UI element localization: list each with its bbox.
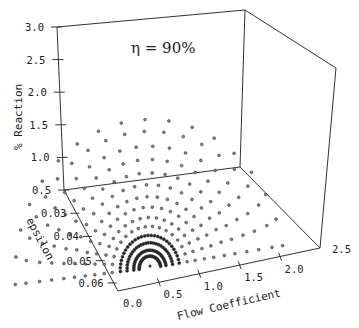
data-point — [15, 256, 18, 259]
y-tick-label: 0.05 — [67, 255, 92, 267]
data-point — [242, 234, 245, 237]
data-point — [14, 283, 17, 286]
data-point — [137, 227, 140, 230]
data-point — [200, 207, 203, 210]
data-point — [176, 254, 179, 257]
data-point — [25, 282, 28, 285]
data-point — [56, 178, 59, 181]
data-point — [177, 228, 180, 231]
data-point — [103, 156, 106, 159]
z-tick-label: 3.0 — [25, 21, 44, 33]
data-point — [118, 150, 121, 153]
z-tick-label: 1.5 — [29, 119, 48, 131]
data-point — [119, 266, 122, 269]
y-tick-label: 0.06 — [78, 277, 103, 289]
data-point — [143, 234, 146, 237]
data-point — [105, 254, 108, 257]
data-point — [223, 254, 226, 257]
data-point — [124, 212, 127, 215]
data-point — [150, 234, 153, 237]
data-point — [185, 208, 188, 211]
data-point — [165, 240, 168, 243]
data-point — [257, 248, 260, 251]
data-point — [125, 235, 128, 238]
data-point — [138, 172, 141, 175]
data-point — [184, 253, 187, 256]
data-point — [237, 196, 240, 199]
data-point — [135, 146, 138, 149]
data-point — [199, 191, 202, 194]
data-point — [184, 152, 187, 155]
data-point — [177, 215, 180, 218]
data-point — [162, 238, 165, 241]
data-point — [228, 204, 231, 207]
data-point — [108, 168, 111, 171]
data-point — [208, 217, 211, 220]
data-point — [191, 229, 194, 232]
data-point — [50, 279, 53, 282]
data-point — [168, 120, 171, 123]
axes-box — [57, 10, 336, 291]
data-point — [126, 269, 129, 272]
data-point — [111, 263, 114, 266]
data-point — [101, 188, 104, 191]
data-point — [126, 266, 129, 269]
data-point — [160, 207, 163, 210]
data-point — [180, 164, 183, 167]
data-point — [203, 257, 206, 260]
data-point — [192, 250, 195, 253]
data-point — [147, 216, 150, 219]
data-point — [200, 143, 203, 146]
data-point — [185, 221, 188, 224]
data-point — [188, 242, 191, 245]
data-point — [111, 195, 114, 198]
data-point — [157, 184, 160, 187]
data-point — [104, 139, 107, 142]
data-point — [178, 262, 181, 265]
z-axis-label: % Reaction — [12, 84, 25, 150]
data-point — [169, 210, 172, 213]
x-tick-label: 2.5 — [332, 243, 351, 255]
data-point — [133, 208, 136, 211]
data-point — [94, 230, 97, 233]
data-point — [75, 249, 78, 252]
chart-root: 0.51.01.52.02.53.00.030.040.050.060.00.5… — [0, 0, 359, 328]
data-points — [14, 118, 284, 286]
y-tick-label: 0.04 — [54, 230, 79, 242]
data-point — [177, 258, 180, 261]
x-tick-label: 0.5 — [163, 288, 182, 300]
data-point — [38, 280, 41, 283]
data-point — [113, 255, 116, 258]
data-point — [176, 202, 179, 205]
data-point — [245, 250, 248, 253]
data-point — [151, 172, 154, 175]
data-point — [146, 234, 149, 237]
data-point — [170, 223, 173, 226]
data-point — [180, 191, 183, 194]
data-point — [83, 187, 86, 190]
data-point — [108, 212, 111, 215]
z-tick-label: 1.0 — [31, 151, 50, 163]
data-point — [151, 145, 154, 148]
data-point — [201, 247, 204, 250]
data-point — [214, 169, 217, 172]
data-point — [120, 241, 123, 244]
data-point — [103, 272, 106, 275]
data-point — [151, 206, 154, 209]
data-point — [176, 239, 179, 242]
data-point — [89, 240, 92, 243]
data-point — [123, 133, 126, 136]
data-point — [218, 191, 221, 194]
data-point — [140, 235, 143, 238]
data-point — [265, 224, 268, 227]
3d-scatter-plot: 0.51.01.52.02.53.00.030.040.050.060.00.5… — [0, 0, 359, 328]
z-tick-label: 2.5 — [26, 54, 45, 66]
data-point — [116, 248, 119, 251]
data-point — [151, 225, 154, 228]
data-point — [253, 230, 256, 233]
x-tick-label: 1.5 — [244, 271, 263, 283]
data-point — [170, 245, 173, 248]
data-point — [97, 130, 100, 133]
data-point — [142, 206, 145, 209]
data-point — [113, 181, 116, 184]
